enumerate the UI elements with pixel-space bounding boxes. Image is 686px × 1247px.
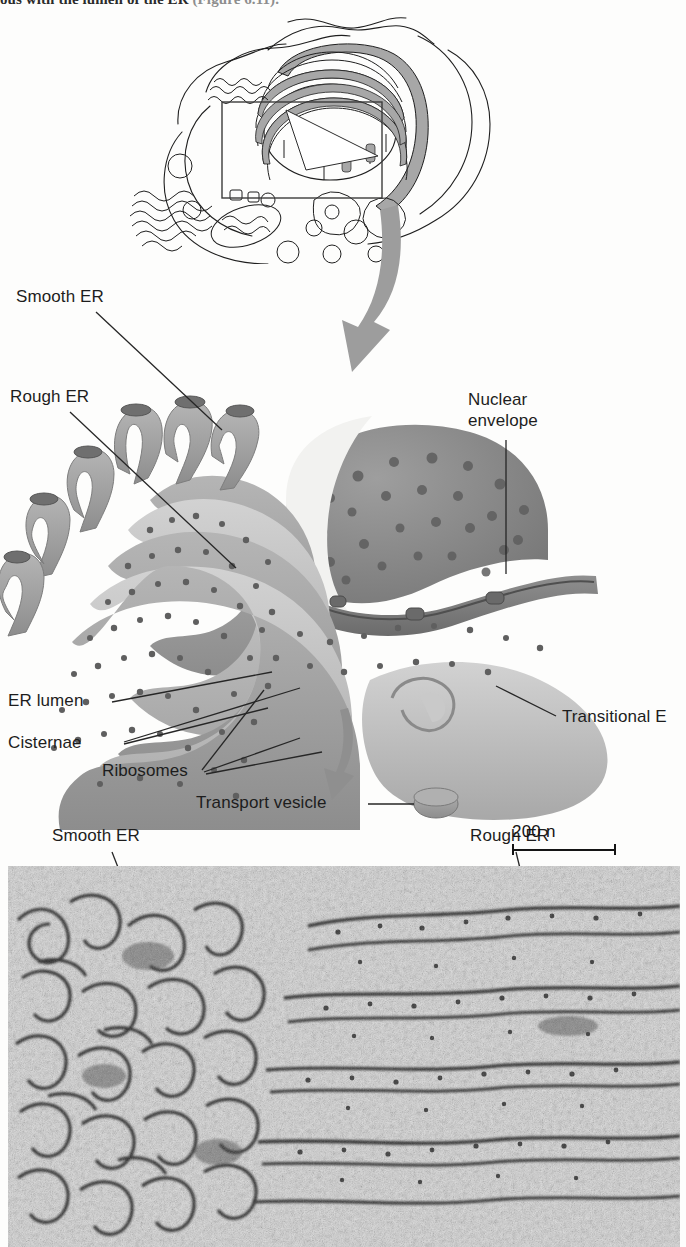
transitional-er (362, 662, 607, 820)
label-smooth-er: Smooth ER (16, 287, 104, 307)
micrograph-image (8, 866, 680, 1247)
label-transitional-er: Transitional E (562, 707, 667, 727)
scale-bar-group: 200 n (512, 822, 632, 855)
label-nuclear-envelope-line1: Nuclear (468, 390, 527, 410)
label-ribosomes: Ribosomes (102, 761, 188, 781)
cell-outline-svg (118, 14, 538, 264)
body-text-main: ous with the lumen of the ER (0, 0, 193, 7)
transport-vesicle (414, 788, 458, 818)
scale-bar-graphic (512, 844, 616, 855)
electron-micrograph (8, 866, 680, 1247)
whole-cell-outline-diagram (118, 14, 538, 264)
label-er-lumen: ER lumen (8, 691, 83, 711)
figure-page: ous with the lumen of the ER (Figure 6.1… (0, 0, 686, 1247)
label-nuclear-envelope-line2: envelope (468, 411, 538, 431)
scale-bar-label: 200 n (512, 822, 632, 842)
label-transport-vesicle: Transport vesicle (196, 793, 327, 813)
figure-reference: (Figure 6.11). (193, 0, 280, 7)
magnified-region-box (222, 102, 382, 198)
label-rough-er: Rough ER (10, 387, 89, 407)
body-text-line: ous with the lumen of the ER (Figure 6.1… (0, 0, 686, 8)
label-micrograph-smooth-er: Smooth ER (52, 826, 140, 846)
label-cisternae: Cisternae (8, 733, 82, 753)
